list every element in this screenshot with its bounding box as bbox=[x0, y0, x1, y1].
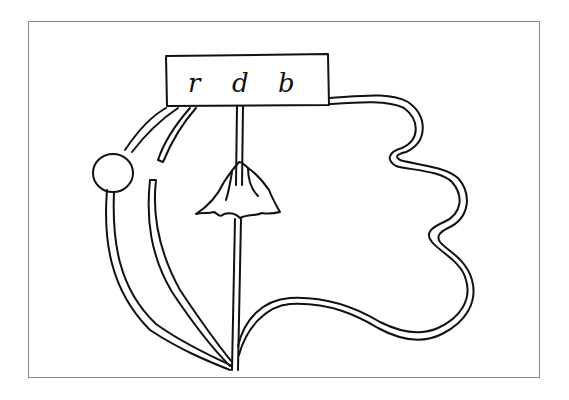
ribbon-knot bbox=[93, 154, 133, 192]
line-drawing: r d b bbox=[0, 0, 569, 400]
label-letter-r: r bbox=[188, 68, 202, 98]
label-letter-d: d bbox=[232, 68, 249, 98]
bell-flower bbox=[196, 162, 280, 218]
label-box: r d b bbox=[166, 54, 329, 106]
right-ribbon bbox=[238, 96, 474, 356]
central-stem bbox=[232, 106, 243, 370]
label-letter-b: b bbox=[278, 68, 295, 98]
